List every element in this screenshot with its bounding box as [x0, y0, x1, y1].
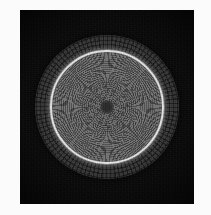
- inner-mesh-disk: [52, 52, 162, 162]
- inner-disk-radial-spokes: [52, 52, 162, 162]
- inner-disk-concentric-lines: [52, 52, 162, 162]
- figure-root: Circular radial mesh disk on a black fie…: [0, 0, 211, 215]
- dark-image-panel: [20, 10, 194, 204]
